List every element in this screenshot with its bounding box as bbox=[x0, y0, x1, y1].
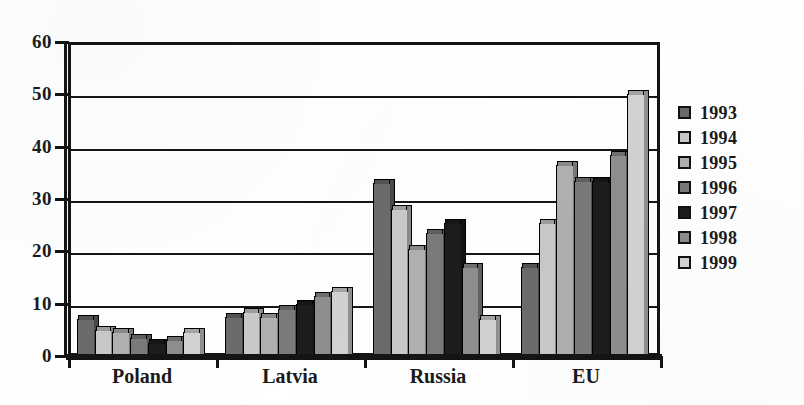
bar-poland-1995 bbox=[112, 332, 130, 356]
bar-russia-1993 bbox=[373, 183, 391, 356]
bar-poland-1993 bbox=[77, 319, 95, 356]
bar-top-face bbox=[593, 177, 609, 182]
bar-eu-1999 bbox=[627, 94, 645, 356]
bar-top-face bbox=[540, 219, 556, 224]
y-axis-label-20: 20 bbox=[10, 241, 52, 260]
bar-eu-1998 bbox=[610, 155, 628, 356]
bar-top-face bbox=[78, 315, 94, 320]
bar-russia-1997 bbox=[444, 223, 462, 356]
x-axis-label-poland: Poland bbox=[68, 364, 216, 388]
bar-top-face bbox=[374, 179, 390, 184]
bar-russia-1996 bbox=[426, 233, 444, 356]
bar-latvia-1999 bbox=[331, 291, 349, 356]
legend-swatch-icon-1993 bbox=[678, 106, 691, 119]
bar-side-face bbox=[348, 287, 353, 355]
x-axis-label-eu: EU bbox=[512, 364, 660, 388]
bar-eu-1997 bbox=[592, 181, 610, 356]
bar-top-face bbox=[392, 205, 408, 210]
bar-side-face bbox=[200, 328, 205, 355]
legend-swatch-icon-1999 bbox=[678, 256, 691, 269]
legend-label-1993: 1993 bbox=[700, 104, 737, 122]
bar-top-face bbox=[279, 305, 295, 310]
bar-latvia-1995 bbox=[260, 317, 278, 356]
legend-swatch-icon-1997 bbox=[678, 206, 691, 219]
bar-poland-1999 bbox=[183, 332, 201, 356]
bar-top-face bbox=[445, 219, 461, 224]
y-axis-label-50: 50 bbox=[10, 84, 52, 103]
legend-label-1999: 1999 bbox=[700, 254, 737, 272]
bar-side-face bbox=[496, 315, 501, 355]
bar-eu-1994 bbox=[539, 223, 557, 356]
bar-latvia-1993 bbox=[225, 317, 243, 356]
bar-latvia-1998 bbox=[314, 296, 332, 356]
bar-group-russia bbox=[364, 42, 512, 356]
bar-top-face bbox=[463, 263, 479, 268]
legend-swatch-icon-1996 bbox=[678, 181, 691, 194]
bar-top-face bbox=[628, 90, 644, 95]
bar-top-face bbox=[261, 313, 277, 318]
legend-swatch-icon-1998 bbox=[678, 231, 691, 244]
bar-top-face bbox=[131, 334, 147, 339]
y-axis-label-40: 40 bbox=[10, 137, 52, 156]
bar-top-face bbox=[427, 229, 443, 234]
legend-swatch-icon-1994 bbox=[678, 131, 691, 144]
legend-item-1999[interactable]: 1999 bbox=[678, 250, 798, 275]
bar-group-latvia bbox=[216, 42, 364, 356]
legend-swatch-icon-1995 bbox=[678, 156, 691, 169]
bar-top-face bbox=[315, 292, 331, 297]
bar-top-face bbox=[297, 300, 313, 305]
bar-top-face bbox=[332, 287, 348, 292]
bar-top-face bbox=[409, 245, 425, 250]
bar-eu-1993 bbox=[521, 267, 539, 356]
y-axis-label-60: 60 bbox=[10, 32, 52, 51]
bar-poland-1994 bbox=[95, 330, 113, 356]
x-tick-4 bbox=[660, 356, 663, 368]
bar-latvia-1996 bbox=[278, 309, 296, 356]
bar-russia-1994 bbox=[391, 209, 409, 356]
y-axis-label-0: 0 bbox=[10, 346, 52, 365]
y-axis-label-10: 10 bbox=[10, 294, 52, 313]
bar-russia-1995 bbox=[408, 249, 426, 356]
legend-label-1997: 1997 bbox=[700, 204, 737, 222]
bar-top-face bbox=[575, 177, 591, 182]
bar-russia-1999 bbox=[479, 319, 497, 356]
bar-top-face bbox=[611, 151, 627, 156]
bars-layer bbox=[68, 42, 660, 356]
x-axis-label-russia: Russia bbox=[364, 364, 512, 388]
bar-top-face bbox=[96, 326, 112, 331]
legend-label-1996: 1996 bbox=[700, 179, 737, 197]
bar-top-face bbox=[226, 313, 242, 318]
legend-label-1995: 1995 bbox=[700, 154, 737, 172]
legend-label-1994: 1994 bbox=[700, 129, 737, 147]
bar-top-face bbox=[480, 315, 496, 320]
bar-latvia-1997 bbox=[296, 304, 314, 356]
bar-side-face bbox=[644, 90, 649, 355]
bar-group-poland bbox=[68, 42, 216, 356]
bar-eu-1995 bbox=[556, 165, 574, 356]
legend-item-1998[interactable]: 1998 bbox=[678, 225, 798, 250]
legend-item-1996[interactable]: 1996 bbox=[678, 175, 798, 200]
y-axis-label-30: 30 bbox=[10, 189, 52, 208]
bar-top-face bbox=[557, 161, 573, 166]
bar-top-face bbox=[167, 336, 183, 341]
bar-top-face bbox=[244, 308, 260, 313]
legend-item-1994[interactable]: 1994 bbox=[678, 125, 798, 150]
bar-top-face bbox=[522, 263, 538, 268]
bar-chart: 0102030405060 PolandLatviaRussiaEU 19931… bbox=[0, 0, 804, 405]
x-axis-label-latvia: Latvia bbox=[216, 364, 364, 388]
legend-item-1993[interactable]: 1993 bbox=[678, 100, 798, 125]
legend-label-1998: 1998 bbox=[700, 229, 737, 247]
bar-top-face bbox=[184, 328, 200, 333]
bar-top-face bbox=[149, 339, 165, 344]
legend-item-1995[interactable]: 1995 bbox=[678, 150, 798, 175]
bar-russia-1998 bbox=[462, 267, 480, 356]
bar-group-eu bbox=[512, 42, 660, 356]
bar-latvia-1994 bbox=[243, 312, 261, 356]
bar-top-face bbox=[113, 328, 129, 333]
bar-eu-1996 bbox=[574, 181, 592, 356]
legend-item-1997[interactable]: 1997 bbox=[678, 200, 798, 225]
legend: 1993199419951996199719981999 bbox=[678, 100, 798, 275]
